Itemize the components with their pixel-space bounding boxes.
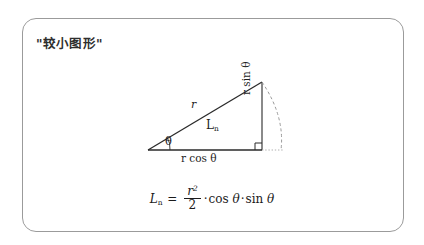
area-formula: Ln = r2 2 ·cos θ·sin θ <box>0 186 424 212</box>
formula-dot-1: · <box>204 192 208 206</box>
formula-lhs-subscript: n <box>158 198 163 207</box>
height-label: r sin θ <box>240 61 252 95</box>
formula-numerator-exponent: 2 <box>193 184 198 193</box>
hypotenuse-label: r <box>191 98 196 111</box>
formula-cos: cos <box>209 192 229 206</box>
formula-numerator: r2 <box>184 185 200 199</box>
page-title: "较小图形" <box>36 33 103 52</box>
formula-lhs: L <box>150 192 158 206</box>
area-label-base: L <box>206 118 214 132</box>
formula-theta-1: θ <box>232 192 239 206</box>
base-label: r cos θ <box>181 152 217 164</box>
formula-dot-2: · <box>241 192 245 206</box>
formula-equals: = <box>167 192 177 206</box>
screenshot-root: "较小图形" r θ Ln r cos θ r sin θ Ln = r2 2 … <box>0 0 424 245</box>
formula-denominator: 2 <box>184 199 200 212</box>
formula-sin: sin <box>246 192 264 206</box>
formula-fraction: r2 2 <box>184 185 200 211</box>
angle-label: θ <box>165 134 172 148</box>
area-label-subscript: n <box>214 124 219 133</box>
area-label: Ln <box>206 118 219 133</box>
formula-theta-2: θ <box>267 192 274 206</box>
